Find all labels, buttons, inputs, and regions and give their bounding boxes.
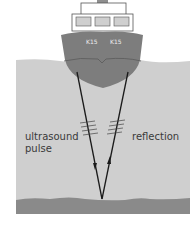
reflection-label: reflection xyxy=(132,131,179,143)
pulse-label-line1: ultrasound xyxy=(25,131,79,142)
hull-label: K15 xyxy=(110,38,122,45)
ultrasound-pulse-label: ultrasound pulse xyxy=(25,131,79,155)
ship-window xyxy=(95,17,110,26)
pulse-label-line2: pulse xyxy=(25,143,52,154)
ship-window xyxy=(114,17,129,26)
ship-superstructure xyxy=(81,3,126,15)
hull-label: K15 xyxy=(86,38,98,45)
ship-window xyxy=(76,17,91,26)
echo-sounding-diagram: K15 K15 xyxy=(0,0,195,225)
